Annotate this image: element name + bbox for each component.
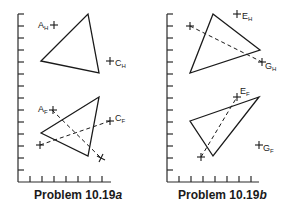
point-left-marker bbox=[36, 141, 44, 149]
label-g-f: GF bbox=[263, 143, 274, 154]
triangle-b-horizontal bbox=[190, 14, 260, 73]
point-gf-marker bbox=[255, 141, 263, 149]
label-a-f: AF bbox=[38, 104, 48, 115]
point-cf-marker bbox=[106, 117, 114, 125]
label-g-h: GH bbox=[265, 61, 276, 72]
point-left-b-marker bbox=[186, 22, 194, 30]
dashed-line-a-1 bbox=[40, 121, 110, 145]
caption-a: Problem 10.19a bbox=[34, 188, 122, 202]
label-c-f: CF bbox=[115, 113, 126, 124]
point-ah-marker bbox=[50, 21, 58, 29]
point-ch-marker bbox=[106, 57, 114, 65]
label-a-h: AH bbox=[38, 20, 48, 31]
label-e-f: EF bbox=[240, 86, 250, 97]
point-eh-marker bbox=[233, 10, 241, 18]
point-bottom-b-marker bbox=[197, 153, 205, 161]
label-e-h: EH bbox=[242, 11, 252, 22]
triangle-a-frontal bbox=[41, 97, 99, 156]
triangle-a-horizontal bbox=[41, 14, 99, 73]
point-af-marker bbox=[49, 106, 57, 114]
label-c-h: CH bbox=[115, 58, 126, 69]
caption-b: Problem 10.19b bbox=[178, 188, 267, 202]
diagram-canvas: AH CH AF CF EH GH EF GF bbox=[0, 0, 286, 211]
triangle-b-frontal bbox=[190, 97, 259, 156]
